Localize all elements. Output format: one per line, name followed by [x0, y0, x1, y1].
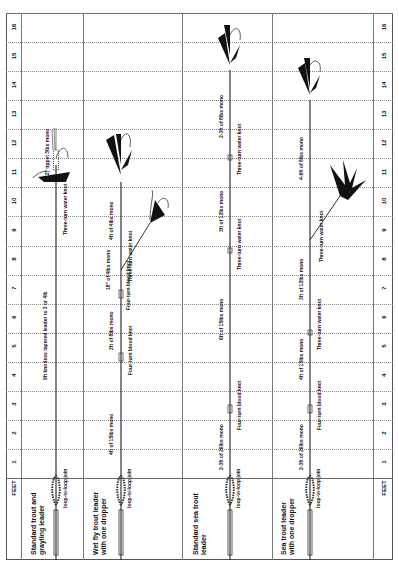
leader-2-knot-1: Four-turn blood knot: [127, 326, 133, 375]
leader-4-segment-3: 3ft of 12lbs mono: [298, 259, 304, 300]
leader-1-line: [52, 150, 60, 560]
leader-3-segment-1: 2-3ft of 20lbs mono: [218, 424, 224, 470]
leader-4-knot-3: Three-turn water knot: [318, 211, 324, 262]
leader-2-line: [117, 182, 150, 560]
leader-4-flies: [298, 58, 366, 200]
leader-1-knot-1: Three-turn water knot: [62, 184, 68, 235]
leader-3-fly: [218, 25, 240, 65]
leader-4-segment-1: 2-3ft of 20lbs mono: [298, 424, 304, 470]
leader-2-segment-1: 4ft of 15lbs mono: [108, 414, 114, 455]
leader-3-segment-3: 3ft of 12lbs mono: [218, 191, 224, 232]
leader-2-join: loop-to-loop join: [126, 469, 132, 508]
leader-2-segment-3: 18" of 4lbs mono: [105, 250, 111, 290]
leader-1-segment-1: 9ft knotless tapered leader to 3 or 4lb: [42, 291, 48, 380]
leader-4-knot-1: Four-turn blood knot: [316, 381, 322, 430]
leader-2-segment-4: 4ft of 4lbs mono: [108, 201, 114, 240]
leader-4-line: [306, 100, 340, 560]
leader-4-knot-2: Three-turn water knot: [316, 299, 322, 350]
leader-3-join: loop-to-loop join: [235, 469, 241, 508]
leader-2-flies: [106, 134, 168, 223]
leader-1-dropper: 12" tippet 3lbs mono: [44, 129, 50, 178]
leader-3-knot-2: Three-turn water knot: [236, 219, 242, 270]
leader-drawings: [0, 0, 399, 566]
leader-3-segment-4: 2-3ft of 8lbs mono: [218, 95, 224, 138]
leader-3-knot-1: Four-turn blood knot: [236, 381, 242, 430]
leader-2-knot-3: Three-turn water knot: [127, 231, 133, 282]
leader-4-segment-4: 4-6ft of 8lbs mono: [298, 137, 304, 180]
leader-1-join: loop-to-loop join: [62, 469, 68, 508]
leader-4-join: loop-to-loop join: [315, 469, 321, 508]
leader-3-segment-2: 6ft of 15lbs mono: [218, 299, 224, 340]
leader-4-segment-2: 4ft of 15lbs mono: [298, 339, 304, 380]
leader-2-segment-2: 2ft of 8lbs mono: [108, 311, 114, 350]
leader-3-line: [226, 70, 234, 560]
leader-1-fly: [33, 128, 70, 182]
leader-3-knot-3: Three-turn water knot: [236, 124, 242, 175]
